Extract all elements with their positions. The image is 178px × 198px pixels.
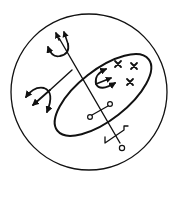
outer-circle — [11, 14, 167, 170]
hooked-crossbar — [105, 126, 128, 143]
cross-marks — [115, 61, 137, 85]
sigil-figure: Sigil seal — [0, 0, 178, 198]
staff-end-ring — [119, 145, 124, 150]
crossbar-with-rings — [88, 102, 113, 120]
central-staff — [59, 38, 120, 143]
sigil-drawing — [0, 0, 178, 198]
left-trident — [26, 70, 72, 112]
top-trident — [48, 32, 68, 56]
middle-trident — [96, 69, 115, 88]
